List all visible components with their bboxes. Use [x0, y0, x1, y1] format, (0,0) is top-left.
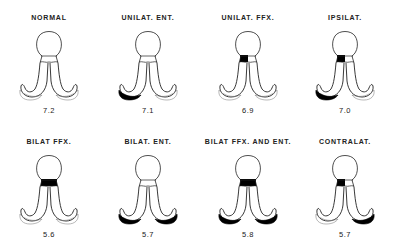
- panel-value: 6.9: [199, 106, 297, 115]
- panel-value: 5.7: [99, 230, 197, 239]
- panel-label: BILAT FFX.: [0, 138, 98, 145]
- panel-label: IPSILAT.: [296, 14, 393, 21]
- spinal-cord-diagram-icon: [116, 150, 180, 226]
- figure-grid: NORMAL 7.2 UNILAT. ENT.: [0, 0, 393, 248]
- lesion-panel: BILAT FFX. AND ENT. 5.8: [199, 124, 297, 248]
- lesion-panel: UNILAT. FFX. 6.9: [199, 0, 297, 124]
- lesion-panel: NORMAL 7.2: [0, 0, 98, 124]
- panel-label: BILAT FFX. AND ENT.: [199, 138, 297, 145]
- panel-value: 5.6: [0, 230, 98, 239]
- spinal-cord-diagram-icon: [17, 26, 81, 102]
- spinal-cord-diagram-icon: [313, 150, 377, 226]
- lesion-panel: IPSILAT. 7.0: [296, 0, 393, 124]
- panel-value: 5.7: [296, 230, 393, 239]
- spinal-cord-diagram-icon: [216, 150, 280, 226]
- lesion-panel: CONTRALAT. 5.7: [296, 124, 393, 248]
- panel-value: 7.1: [99, 106, 197, 115]
- spinal-cord-diagram-icon: [313, 26, 377, 102]
- panel-label: NORMAL: [0, 14, 98, 21]
- spinal-cord-diagram-icon: [216, 26, 280, 102]
- panel-label: UNILAT. ENT.: [99, 14, 197, 21]
- panel-value: 7.2: [0, 106, 98, 115]
- spinal-cord-diagram-icon: [116, 26, 180, 102]
- panel-label: BILAT. ENT.: [99, 138, 197, 145]
- lesion-panel: UNILAT. ENT. 7.1: [99, 0, 197, 124]
- spinal-cord-diagram-icon: [17, 150, 81, 226]
- panel-label: CONTRALAT.: [296, 138, 393, 145]
- lesion-panel: BILAT FFX. 5.6: [0, 124, 98, 248]
- panel-value: 7.0: [296, 106, 393, 115]
- lesion-panel: BILAT. ENT. 5.7: [99, 124, 197, 248]
- panel-value: 5.8: [199, 230, 297, 239]
- panel-label: UNILAT. FFX.: [199, 14, 297, 21]
